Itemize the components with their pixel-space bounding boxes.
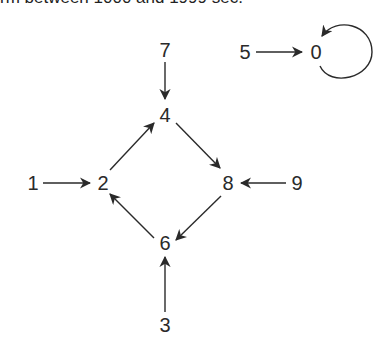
node-5: 5 bbox=[239, 41, 250, 63]
node-7: 7 bbox=[159, 39, 170, 61]
node-9: 9 bbox=[291, 172, 302, 194]
edge-4-8 bbox=[176, 123, 220, 168]
directed-graph: 0 1 2 3 4 5 6 7 8 9 bbox=[0, 0, 390, 348]
node-4: 4 bbox=[159, 104, 170, 126]
node-2: 2 bbox=[97, 172, 108, 194]
node-3: 3 bbox=[159, 314, 170, 336]
node-0: 0 bbox=[310, 41, 321, 63]
node-8: 8 bbox=[222, 172, 233, 194]
node-6: 6 bbox=[159, 232, 170, 254]
edge-8-6 bbox=[176, 196, 221, 240]
edge-0-0-self-loop bbox=[320, 25, 372, 78]
edge-6-2 bbox=[110, 194, 154, 238]
node-1: 1 bbox=[27, 172, 38, 194]
edge-2-4 bbox=[110, 123, 154, 170]
